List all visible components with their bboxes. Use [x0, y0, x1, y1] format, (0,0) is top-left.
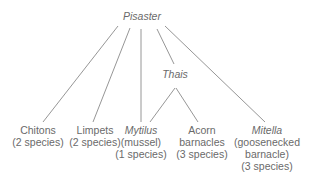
node-thais: Thais — [162, 68, 188, 80]
node-name: Chitons — [12, 124, 63, 136]
node-detail: (mussel) — [115, 136, 166, 148]
node-detail: (goosenecked — [234, 136, 300, 148]
edge-thais-mytilus — [150, 88, 175, 122]
node-chitons: Chitons (2 species) — [12, 124, 63, 148]
node-name: Mitella — [234, 124, 300, 136]
node-limpets: Limpets (2 species) — [69, 124, 120, 148]
node-detail: (3 species) — [176, 148, 227, 160]
node-pisaster: Pisaster — [123, 10, 161, 22]
node-name: Mytilus — [115, 124, 166, 136]
node-mytilus: Mytilus (mussel) (1 species) — [115, 124, 166, 160]
node-detail: (2 species) — [12, 136, 63, 148]
edge-thais-acorn — [176, 88, 198, 122]
node-detail: barnacles — [176, 136, 227, 148]
node-mitella: Mitella (goosenecked barnacle) (3 specie… — [234, 124, 300, 172]
node-acorn-barnacles: Acorn barnacles (3 species) — [176, 124, 227, 160]
node-detail: (3 species) — [234, 160, 300, 172]
edge-pisaster-limpets — [93, 28, 130, 122]
edge-pisaster-chitons — [43, 26, 118, 122]
edge-pisaster-thais — [157, 29, 174, 64]
node-name: Limpets — [69, 124, 120, 136]
node-name: Acorn — [176, 124, 227, 136]
node-detail: barnacle) — [234, 148, 300, 160]
node-detail: (2 species) — [69, 136, 120, 148]
node-detail: (1 species) — [115, 148, 166, 160]
